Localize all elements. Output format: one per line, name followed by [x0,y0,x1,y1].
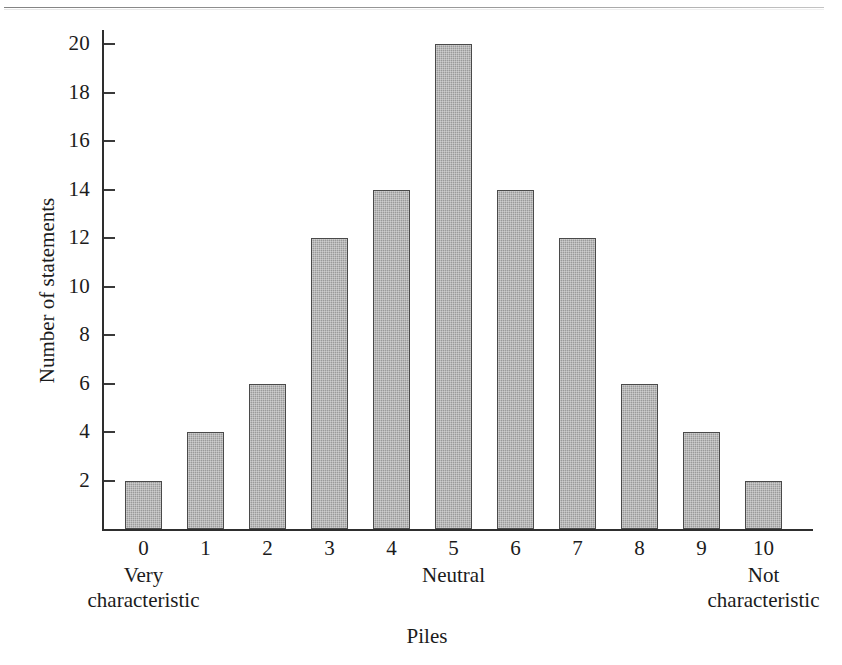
bar [559,238,596,529]
anchor-right-line1: Not [669,563,842,588]
anchor-mid-line1: Neutral [359,563,549,588]
y-tick-mark [104,286,115,288]
x-tick-label: 0 [114,536,174,560]
x-tick-label: 5 [424,536,484,560]
y-tick-label: 2 [44,470,90,491]
bar [125,481,162,530]
y-tick-mark [104,43,115,45]
anchor-label-not-characteristic: Not characteristic [669,563,842,613]
histogram-figure: 2468101214161820 012345678910 Very chara… [0,0,842,665]
y-tick-mark [104,334,115,336]
bar [683,432,720,529]
x-tick-label: 3 [300,536,360,560]
page-top-rule [4,7,824,8]
x-tick-label: 7 [548,536,608,560]
x-axis-line [102,529,813,531]
anchor-right-line2: characteristic [669,588,842,613]
x-axis-title: Piles [0,624,842,649]
y-axis-line [102,30,104,530]
anchor-label-very-characteristic: Very characteristic [49,563,239,613]
bar [435,44,472,529]
y-tick-mark [104,140,115,142]
y-tick-mark [104,189,115,191]
bar [621,384,658,530]
x-tick-label: 6 [486,536,546,560]
x-tick-label: 1 [176,536,236,560]
x-tick-label: 9 [672,536,732,560]
y-tick-mark [104,237,115,239]
y-axis-title: Number of statements [35,141,60,441]
y-tick-mark [104,383,115,385]
x-tick-label: 4 [362,536,422,560]
x-tick-label: 10 [734,536,794,560]
y-tick-mark [104,480,115,482]
y-tick-label: 20 [44,33,90,54]
page-top-rule-shadow [4,9,824,10]
bar [497,190,534,530]
bar [745,481,782,530]
x-axis-title-text: Piles [407,624,448,648]
anchor-left-line1: Very [49,563,239,588]
bar [311,238,348,529]
bar [187,432,224,529]
bar [249,384,286,530]
x-tick-label: 8 [610,536,670,560]
anchor-label-neutral: Neutral [359,563,549,588]
y-tick-label: 18 [44,82,90,103]
bar [373,190,410,530]
y-tick-mark [104,92,115,94]
anchor-left-line2: characteristic [49,588,239,613]
x-tick-label: 2 [238,536,298,560]
y-tick-mark [104,431,115,433]
